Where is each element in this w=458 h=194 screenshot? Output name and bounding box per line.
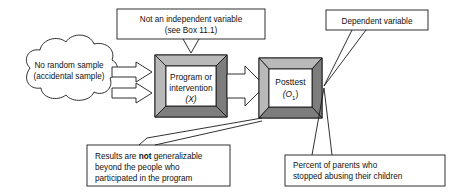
callout-3-seg-2-bold: not <box>139 152 152 161</box>
callout-3-line-1: Results are not generalizable <box>95 152 203 161</box>
callout-4-line-2: stopped abusing their children <box>293 172 403 181</box>
callout-dependent-variable: Dependent variable <box>324 10 428 86</box>
callout-3-seg-1: Results are <box>95 152 139 161</box>
posttest-box: Posttest (O1) <box>259 58 322 118</box>
callout-4-line-1: Percent of parents who <box>293 161 378 170</box>
callout-1-line-1: Not an independent variable <box>140 15 243 24</box>
posttest-box-symbol: (O1) <box>283 89 299 101</box>
arrow-cloud-to-program-upper <box>112 62 152 82</box>
cloud-line-1: No random sample <box>34 61 104 70</box>
callout-2-line-1: Dependent variable <box>341 17 412 26</box>
cloud-line-2: (accidental sample) <box>34 72 105 81</box>
callout-3-line-2: beyond the people who <box>95 163 180 172</box>
posttest-box-line-1: Posttest <box>275 77 306 87</box>
callout-not-independent-variable: Not an independent variable (see Box 11.… <box>117 9 265 53</box>
sample-cloud: No random sample (accidental sample) <box>26 35 117 100</box>
program-box-line-2: intervention <box>169 83 213 93</box>
arrow-cloud-to-program-lower <box>112 83 152 103</box>
callout-3-line-3: participated in the program <box>95 174 193 183</box>
diagram-root: No random sample (accidental sample) Pro… <box>0 0 458 194</box>
posttest-symbol-close: ) <box>295 89 298 99</box>
callout-1-line-2: (see Box 11.1) <box>165 26 218 35</box>
program-box-line-1: Program or <box>170 72 212 82</box>
program-box-symbol: (X) <box>185 94 196 104</box>
diagram-canvas: No random sample (accidental sample) Pro… <box>0 0 458 194</box>
callout-3-seg-3: generalizable <box>151 152 202 161</box>
callout-not-generalizable: Results are not generalizable beyond the… <box>87 118 262 186</box>
program-box: Program or intervention (X) <box>155 55 227 117</box>
